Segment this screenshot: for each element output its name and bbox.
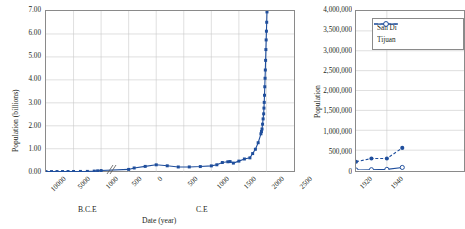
- era-label-ce: C.E: [196, 205, 208, 214]
- y-tick-label: 6.00: [0, 29, 41, 37]
- x-tick-label: 5000: [76, 175, 92, 191]
- x-tick-label: 2500: [298, 175, 314, 191]
- san-diego-tijuana-series: [356, 146, 404, 170]
- world-population-x-axis-title: Date (year): [142, 216, 176, 225]
- legend-item-tijuana: Tijuan: [377, 34, 459, 46]
- y-tick-label: 0.00: [0, 168, 41, 176]
- y-tick-label: 1,000,000: [318, 128, 352, 136]
- y-tick-label: 0: [318, 168, 352, 176]
- y-tick-label: 3,500,000: [318, 26, 352, 34]
- y-tick-label: 3,000,000: [318, 47, 352, 55]
- y-tick-label: 1.00: [0, 145, 41, 153]
- world-population-svg: [46, 11, 294, 172]
- y-tick-label: 500,000: [318, 148, 352, 156]
- x-tick-label: 1940: [390, 175, 406, 191]
- y-tick-label: 7.00: [0, 6, 41, 14]
- world-population-chart-plot-area: [45, 10, 295, 172]
- legend-label-tijuana: Tijuan: [377, 36, 396, 44]
- x-tick-label: 1920: [358, 175, 374, 191]
- x-tick-label: 0: [156, 175, 164, 183]
- x-tick-label: 2000: [270, 175, 286, 191]
- san-diego-tijuana-chart-plot-area: San Di Tijuan: [355, 10, 465, 172]
- y-tick-label: 3.00: [0, 99, 41, 107]
- world-population-series: [46, 11, 268, 172]
- y-tick-label: 5.00: [0, 52, 41, 60]
- y-tick-label: 4,000,000: [318, 6, 352, 14]
- y-tick-label: 1,500,000: [318, 107, 352, 115]
- x-tick-label: 1500: [243, 175, 259, 191]
- y-tick-label: 4.00: [0, 75, 41, 83]
- y-tick-label: 2,000,000: [318, 87, 352, 95]
- x-tick-label: 1000: [104, 175, 120, 191]
- y-tick-label: 2.00: [0, 122, 41, 130]
- axis-break-icon: [105, 164, 117, 176]
- x-tick-label: 500: [130, 175, 143, 188]
- x-tick-label: 1000: [215, 175, 231, 191]
- x-tick-label: 500: [186, 175, 199, 188]
- san-diego-tijuana-y-axis-title: Population: [313, 85, 322, 118]
- era-label-bce: B.C.E: [78, 205, 97, 214]
- y-tick-label: 2,500,000: [318, 67, 352, 75]
- gridlines: [46, 11, 294, 172]
- world-population-y-axis-title: Population (billions): [11, 89, 20, 152]
- x-tick-label: 10000: [49, 175, 67, 193]
- san-diego-tijuana-legend: San Di Tijuan: [372, 18, 464, 50]
